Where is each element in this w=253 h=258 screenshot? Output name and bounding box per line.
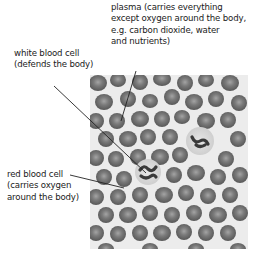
red-blood-cell-label: red blood cell (carries oxygen around th… (7, 169, 79, 203)
white-blood-cell-label-line-2: (defends the body) (14, 59, 93, 70)
plasma-label-line-4: and nutrients) (111, 36, 246, 47)
plasma-label-line-3: e.g. carbon dioxide, water (111, 25, 246, 36)
red-blood-cell-label-line-1: red blood cell (7, 169, 79, 180)
white-blood-cell-1 (135, 159, 161, 185)
plasma-label: plasma (carries everything except oxygen… (111, 2, 246, 48)
red-blood-cell-label-line-2: (carries oxygen (7, 180, 79, 191)
white-blood-cell-2 (186, 127, 214, 155)
red-blood-cell-label-line-3: around the body) (7, 192, 79, 203)
white-blood-cell-label-line-1: white blood cell (14, 48, 93, 59)
blood-cells-illustration (90, 75, 248, 249)
blood-smear-micrograph (90, 75, 248, 249)
white-blood-cell-label: white blood cell (defends the body) (14, 48, 93, 71)
plasma-label-line-1: plasma (carries everything (111, 2, 246, 13)
plasma-label-line-2: except oxygen around the body, (111, 13, 246, 24)
